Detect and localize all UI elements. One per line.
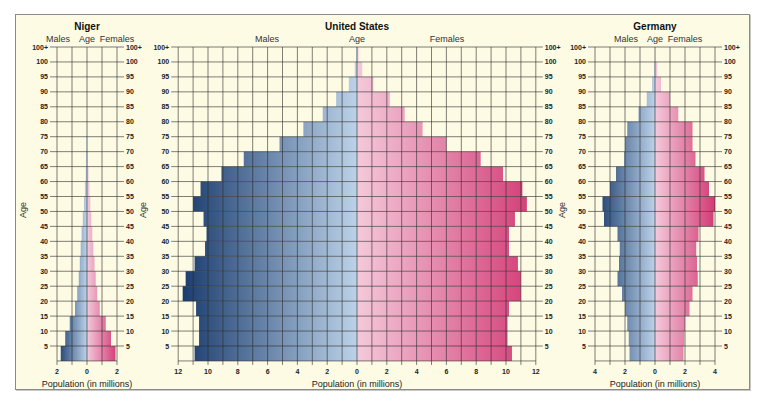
- age-tick-left: 25: [40, 283, 48, 290]
- male-bar: [323, 107, 357, 122]
- female-bar: [87, 301, 100, 316]
- female-bar: [357, 271, 521, 286]
- female-bar: [87, 346, 116, 361]
- female-bar: [655, 77, 661, 92]
- age-tick-left: 45: [40, 223, 48, 230]
- x-tick-label: 4: [415, 368, 419, 375]
- male-bar: [627, 316, 655, 331]
- x-tick-label: 2: [325, 368, 329, 375]
- female-bar: [87, 197, 90, 212]
- age-tick-left: 100: [36, 58, 48, 65]
- pyramid-niger: 100+100+10010095959090858580807575707065…: [18, 21, 142, 389]
- age-tick-left: 20: [161, 298, 169, 305]
- x-axis-label: Population (in millions): [312, 379, 403, 389]
- age-tick-right: 40: [126, 238, 134, 245]
- male-bar: [80, 256, 87, 271]
- age-tick-left: 90: [40, 88, 48, 95]
- x-tick-label: 2: [385, 368, 389, 375]
- age-tick-right: 5: [724, 343, 728, 350]
- age-tick-right: 80: [126, 118, 134, 125]
- male-bar: [183, 286, 357, 301]
- age-tick-right: 15: [724, 313, 732, 320]
- age-tick-right: 90: [126, 88, 134, 95]
- male-bar: [84, 197, 87, 212]
- age-tick-right: 10: [545, 328, 553, 335]
- age-tick-left: 55: [40, 193, 48, 200]
- age-tick-right: 30: [126, 268, 134, 275]
- age-tick-right: 40: [545, 238, 553, 245]
- age-tick-left: 60: [578, 178, 586, 185]
- header-age: Age: [349, 34, 365, 44]
- age-tick-right: 25: [724, 283, 732, 290]
- age-tick-left: 95: [40, 73, 48, 80]
- age-tick-right: 20: [126, 298, 134, 305]
- age-tick-left: 100: [574, 58, 586, 65]
- age-tick-right: 100+: [126, 44, 142, 51]
- age-tick-left: 5: [165, 343, 169, 350]
- male-bar: [201, 182, 357, 197]
- x-tick-label: 8: [474, 368, 478, 375]
- male-bar: [61, 346, 87, 361]
- age-tick-right: 70: [545, 148, 553, 155]
- female-bar: [655, 167, 705, 182]
- age-tick-right: 45: [545, 223, 553, 230]
- age-tick-right: 95: [545, 73, 553, 80]
- age-tick-right: 100+: [545, 44, 561, 51]
- female-bar: [357, 331, 507, 346]
- age-tick-left: 100+: [32, 44, 48, 51]
- male-bar: [75, 301, 87, 316]
- header-males: Males: [46, 34, 71, 44]
- age-tick-right: 100+: [724, 44, 740, 51]
- age-tick-left: 80: [161, 118, 169, 125]
- pyramid-united-states: 100+100+10010095959090858580807575707065…: [138, 21, 561, 389]
- header-females: Females: [430, 34, 465, 44]
- female-bar: [87, 271, 96, 286]
- age-tick-right: 95: [724, 73, 732, 80]
- age-tick-left: 80: [40, 118, 48, 125]
- x-axis-label: Population (in millions): [610, 379, 701, 389]
- male-bar: [207, 226, 357, 241]
- age-tick-left: 95: [161, 73, 169, 80]
- male-bar: [195, 346, 357, 361]
- age-tick-right: 30: [724, 268, 732, 275]
- age-tick-right: 90: [545, 88, 553, 95]
- female-bar: [87, 286, 97, 301]
- age-tick-right: 15: [126, 313, 134, 320]
- male-bar: [193, 197, 357, 212]
- age-tick-right: 65: [724, 163, 732, 170]
- age-tick-left: 30: [578, 268, 586, 275]
- pyramid-germany: 100+100+10010095959090858580807575707065…: [557, 21, 740, 389]
- male-bar: [303, 122, 357, 137]
- female-bar: [357, 256, 518, 271]
- age-tick-right: 80: [724, 118, 732, 125]
- age-tick-right: 10: [724, 328, 732, 335]
- female-bar: [357, 92, 390, 107]
- x-tick-label: 2: [55, 368, 59, 375]
- age-tick-right: 15: [545, 313, 553, 320]
- age-tick-left: 20: [40, 298, 48, 305]
- age-tick-right: 10: [126, 328, 134, 335]
- age-tick-left: 10: [40, 328, 48, 335]
- age-tick-left: 30: [161, 268, 169, 275]
- female-bar: [357, 167, 503, 182]
- y-axis-label: Age: [557, 202, 567, 218]
- female-bar: [655, 182, 709, 197]
- female-bar: [655, 92, 670, 107]
- male-bar: [205, 241, 357, 256]
- age-tick-right: 20: [545, 298, 553, 305]
- x-tick-label: 6: [266, 368, 270, 375]
- male-bar: [652, 77, 655, 92]
- age-tick-right: 35: [126, 253, 134, 260]
- age-tick-left: 95: [578, 73, 586, 80]
- age-tick-left: 35: [578, 253, 586, 260]
- x-tick-label: 4: [295, 368, 299, 375]
- female-bar: [655, 226, 699, 241]
- x-tick-label: 0: [355, 368, 359, 375]
- male-bar: [639, 107, 656, 122]
- female-bar: [357, 316, 507, 331]
- male-bar: [630, 346, 656, 361]
- age-tick-left: 45: [578, 223, 586, 230]
- male-bar: [81, 241, 87, 256]
- age-tick-left: 100+: [570, 44, 586, 51]
- age-tick-left: 5: [44, 343, 48, 350]
